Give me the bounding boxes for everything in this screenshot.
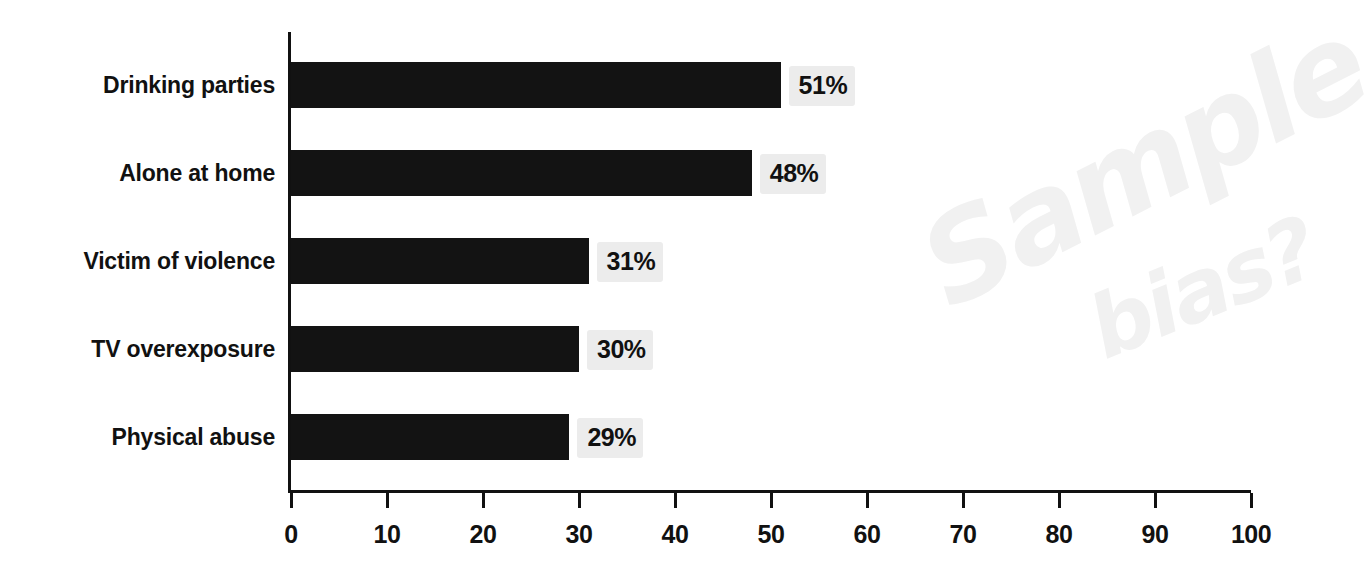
x-axis-tick-label: 90 [1142,520,1169,549]
x-axis-tick-label: 50 [758,520,785,549]
x-axis-tick-label: 60 [854,520,881,549]
x-axis-tick [962,493,965,508]
x-axis-tick [1058,493,1061,508]
bar-value-label: 31% [607,238,656,284]
bar-row: Alone at home48% [0,150,1325,196]
x-axis-tick [674,493,677,508]
bar [291,326,579,372]
bar-value-label: 51% [799,62,848,108]
x-axis-tick [1154,493,1157,508]
bar [291,62,781,108]
x-axis-tick [290,493,293,508]
category-label: Drinking parties [103,62,275,108]
x-axis-tick-label: 80 [1046,520,1073,549]
bar [291,414,569,460]
bar-value-label: 48% [770,150,819,196]
x-axis-tick [578,493,581,508]
bar-row: Drinking parties51% [0,62,1325,108]
x-axis-tick-label: 40 [662,520,689,549]
bar-row: Physical abuse29% [0,414,1325,460]
x-axis-tick [770,493,773,508]
x-axis-tick [1250,493,1253,508]
x-axis-tick [386,493,389,508]
x-axis-tick-label: 100 [1231,520,1271,549]
bar-row: TV overexposure30% [0,326,1325,372]
bar [291,150,752,196]
x-axis-tick [866,493,869,508]
category-label: Victim of violence [83,238,275,284]
x-axis-tick-label: 30 [566,520,593,549]
category-label: TV overexposure [91,326,275,372]
bar [291,238,589,284]
x-axis-tick [482,493,485,508]
category-label: Physical abuse [112,414,275,460]
bar-row: Victim of violence31% [0,238,1325,284]
x-axis-tick-label: 70 [950,520,977,549]
x-axis-tick-label: 20 [470,520,497,549]
x-axis-tick-label: 0 [284,520,297,549]
category-label: Alone at home [119,150,275,196]
bar-value-label: 30% [597,326,646,372]
x-axis-tick-label: 10 [374,520,401,549]
bar-value-label: 29% [587,414,636,460]
